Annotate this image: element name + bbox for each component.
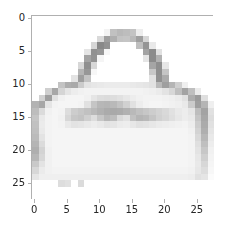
x-tick-label: 20: [158, 205, 171, 215]
y-tick-label: 25: [5, 178, 25, 188]
x-tick-mark: [132, 199, 133, 203]
y-tick-label: 15: [5, 112, 25, 122]
y-tick-label: 5: [5, 46, 25, 56]
x-tick-mark: [67, 199, 68, 203]
y-tick-mark: [28, 183, 32, 184]
y-tick-mark: [28, 51, 32, 52]
x-tick-label: 0: [31, 205, 37, 215]
matplotlib-figure: 05101520250510152025: [0, 0, 231, 232]
x-tick-label: 25: [190, 205, 203, 215]
y-tick-mark: [28, 18, 32, 19]
x-tick-label: 5: [64, 205, 70, 215]
image-axes: [31, 15, 213, 199]
x-tick-label: 10: [93, 205, 106, 215]
x-tick-mark: [34, 199, 35, 203]
x-tick-mark: [197, 199, 198, 203]
y-tick-label: 20: [5, 145, 25, 155]
y-tick-mark: [28, 150, 32, 151]
y-tick-mark: [28, 84, 32, 85]
x-tick-mark: [99, 199, 100, 203]
fashion-mnist-bag-image: [32, 16, 214, 200]
y-tick-label: 10: [5, 79, 25, 89]
y-tick-label: 0: [5, 13, 25, 23]
x-tick-label: 15: [125, 205, 138, 215]
y-tick-mark: [28, 117, 32, 118]
x-tick-mark: [164, 199, 165, 203]
